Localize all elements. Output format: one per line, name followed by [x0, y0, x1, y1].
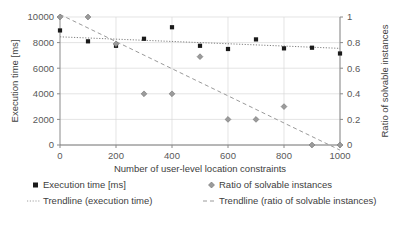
data-point-ratio — [225, 117, 231, 123]
data-point-ratio — [169, 91, 175, 97]
data-point-execution-time — [86, 39, 90, 43]
data-point-ratio — [337, 142, 343, 148]
data-point-ratio — [141, 91, 147, 97]
y-axis-left-tick-label: 4000 — [33, 88, 54, 99]
trendline-group — [60, 14, 340, 150]
chart-svg: 020004000600080001000000.20.40.60.810200… — [0, 0, 401, 225]
legend-item-label: Ratio of solvable instances — [219, 179, 332, 190]
data-point-execution-time — [254, 37, 258, 41]
x-axis-tick-label: 800 — [276, 150, 292, 161]
x-axis-tick-label: 600 — [220, 150, 236, 161]
axis-lines — [60, 17, 340, 145]
data-point-ratio — [309, 142, 315, 148]
y-axis-right-tick-label: 0 — [347, 139, 352, 150]
x-axis-tick-label: 400 — [164, 150, 180, 161]
data-point-execution-time — [170, 25, 174, 29]
y-axis-right-tick-label: 1 — [347, 11, 352, 22]
data-point-ratio — [197, 54, 203, 60]
data-point-execution-time — [310, 46, 314, 50]
data-point-execution-time — [58, 28, 62, 32]
data-point-ratio — [253, 117, 259, 123]
data-point-execution-time — [198, 44, 202, 48]
tick-labels: 020004000600080001000000.20.40.60.810200… — [28, 11, 361, 161]
legend-item-label: Trendline (ratio of solvable instances) — [219, 195, 377, 206]
legend-item: Trendline (ratio of solvable instances) — [203, 195, 377, 206]
diamond-marker-icon — [209, 182, 215, 188]
x-axis-tick-label: 0 — [57, 150, 62, 161]
trendline-ratio — [60, 14, 340, 150]
legend-item: Trendline (execution time) — [27, 195, 152, 206]
x-axis-title: Number of user-level location constraint… — [114, 163, 286, 174]
y-axis-left-tick-label: 0 — [49, 139, 54, 150]
data-point-ratio — [281, 104, 287, 110]
gridlines — [60, 17, 340, 145]
data-point-ratio — [85, 14, 91, 20]
legend-item-label: Execution time [ms] — [43, 179, 126, 190]
y-axis-left-tick-label: 8000 — [33, 37, 54, 48]
y-axis-left-tick-label: 2000 — [33, 114, 54, 125]
data-point-execution-time — [282, 46, 286, 50]
legend-item-label: Trendline (execution time) — [43, 195, 152, 206]
data-point-execution-time — [338, 51, 342, 55]
data-point-execution-time — [142, 37, 146, 41]
legend-item: Ratio of solvable instances — [209, 179, 333, 190]
y-axis-left-tick-label: 6000 — [33, 63, 54, 74]
y-axis-right-title: Ratio of solvable instances — [379, 24, 390, 137]
legend-item: Execution time [ms] — [33, 179, 126, 190]
square-marker-icon — [33, 183, 38, 188]
y-axis-right-tick-label: 0.8 — [347, 37, 360, 48]
data-point-execution-time — [226, 47, 230, 51]
x-axis-tick-label: 200 — [108, 150, 124, 161]
x-axis-tick-label: 1000 — [329, 150, 350, 161]
chart-legend: Execution time [ms]Ratio of solvable ins… — [27, 179, 377, 206]
y-axis-right-tick-label: 0.6 — [347, 63, 360, 74]
series-execution-time-points — [58, 25, 342, 55]
y-axis-left-title: Execution time [ms] — [9, 40, 20, 123]
y-axis-left-tick-label: 10000 — [28, 11, 54, 22]
y-axis-right-tick-label: 0.4 — [347, 88, 360, 99]
y-axis-right-tick-label: 0.2 — [347, 114, 360, 125]
chart-container: 020004000600080001000000.20.40.60.810200… — [0, 0, 401, 225]
